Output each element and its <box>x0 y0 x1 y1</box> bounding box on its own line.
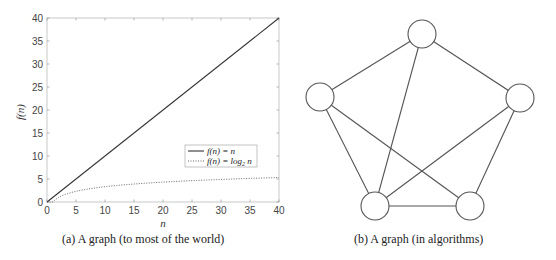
graph-edge <box>320 34 422 97</box>
svg-text:5: 5 <box>37 174 43 185</box>
svg-text:35: 35 <box>32 36 44 47</box>
svg-text:15: 15 <box>32 128 44 139</box>
svg-text:30: 30 <box>32 59 44 70</box>
svg-text:5: 5 <box>73 205 79 216</box>
graph-edge <box>470 98 520 206</box>
svg-text:0: 0 <box>37 197 43 208</box>
graph-node-top <box>408 20 436 48</box>
svg-text:20: 20 <box>157 205 169 216</box>
svg-text:30: 30 <box>215 205 227 216</box>
legend: f(n) = n f(n) = log2 n <box>185 145 257 167</box>
graph-edge <box>422 34 520 98</box>
svg-text:10: 10 <box>32 151 44 162</box>
svg-text:25: 25 <box>186 205 198 216</box>
graph-node-bottom-left <box>361 192 389 220</box>
legend-log-label: f(n) = log2 n <box>207 156 252 167</box>
svg-text:15: 15 <box>128 205 140 216</box>
y-axis-label: f(n) <box>14 104 27 120</box>
svg-text:40: 40 <box>32 13 44 24</box>
graph-node-right <box>506 84 534 112</box>
svg-text:20: 20 <box>32 105 44 116</box>
caption-left: (a) A graph (to most of the world) <box>62 232 224 247</box>
legend-linear-label: f(n) = n <box>207 146 236 156</box>
graph-node-left <box>306 83 334 111</box>
line-chart: 0510152025303540 0510152025303540 n f(n)… <box>14 13 285 230</box>
svg-text:35: 35 <box>244 205 256 216</box>
svg-text:10: 10 <box>99 205 111 216</box>
figure-canvas: 0510152025303540 0510152025303540 n f(n)… <box>0 0 556 260</box>
svg-text:25: 25 <box>32 82 44 93</box>
svg-text:0: 0 <box>44 205 50 216</box>
graph-node-bottom-right <box>456 192 484 220</box>
graph-edge <box>375 34 422 206</box>
x-axis-label: n <box>160 217 166 229</box>
caption-right: (b) A graph (in algorithms) <box>354 232 483 247</box>
svg-text:40: 40 <box>273 205 285 216</box>
graph-edge <box>320 97 375 206</box>
node-graph <box>306 20 534 220</box>
